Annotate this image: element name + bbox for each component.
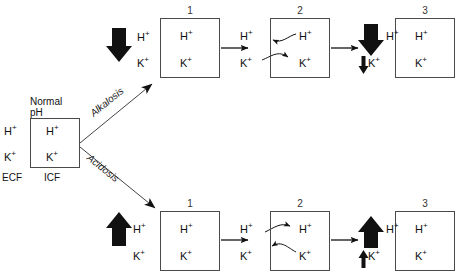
stage-top-1-outside-h: H+ [137, 32, 150, 43]
stage-top-1-inside-h: H+ [180, 31, 193, 42]
change-arrow-top1-h-down [106, 28, 132, 62]
diagram-canvas: Normal pH H+ K+ H+ K+ ECF ICF Alkalosis … [0, 0, 463, 277]
change-arrow-bottom1-h-up [106, 212, 132, 246]
compartment-label-ecf: ECF [2, 172, 22, 184]
stage-number-top-2: 2 [285, 5, 315, 16]
change-arrow-bottom3-h-up [358, 216, 384, 248]
stage-number-top-3: 3 [410, 5, 440, 16]
stage-bottom-3-inside-h: H+ [415, 224, 428, 235]
stage-bottom-2-outside-k: K+ [240, 251, 252, 262]
origin-label-ph: pH [30, 107, 43, 119]
stage-top-1-inside-k: K+ [180, 58, 192, 69]
change-arrow-top3-h-down [358, 24, 384, 56]
stage-bottom-2-inside-h: H+ [299, 224, 312, 235]
stage-top-2-inside-k: K+ [299, 58, 311, 69]
stage-box-bottom-1 [160, 211, 220, 271]
stage-top-2-outside-h: H+ [240, 31, 253, 42]
stage-top-1-outside-k: K+ [137, 58, 149, 69]
stage-box-top-1 [160, 18, 220, 78]
stage-top-2-inside-h: H+ [299, 31, 312, 42]
stage-bottom-1-inside-k: K+ [180, 251, 192, 262]
origin-label-normal: Normal [30, 96, 62, 108]
stage-bottom-3-outside-h: H+ [386, 224, 399, 235]
origin-inside-h: H+ [46, 126, 59, 137]
stage-bottom-3-outside-k: K+ [368, 251, 380, 262]
stage-number-bottom-2: 2 [285, 198, 315, 209]
stage-top-3-inside-k: K+ [415, 58, 427, 69]
change-arrow-top3-k-down [359, 56, 369, 74]
stage-number-top-1: 1 [175, 5, 205, 16]
stage-number-bottom-1: 1 [175, 198, 205, 209]
stage-top-3-outside-h: H+ [386, 31, 399, 42]
stage-bottom-1-outside-k: K+ [133, 251, 145, 262]
stage-bottom-1-outside-h: H+ [133, 224, 146, 235]
stage-top-3-outside-k: K+ [368, 58, 380, 69]
stage-box-top-2 [270, 18, 330, 78]
stage-top-2-outside-k: K+ [240, 58, 252, 69]
stage-box-bottom-3 [395, 211, 455, 271]
stage-bottom-2-outside-h: H+ [240, 224, 253, 235]
stage-number-bottom-3: 3 [410, 198, 440, 209]
stage-box-bottom-2 [270, 211, 330, 271]
change-arrow-bottom3-k-up [359, 250, 369, 268]
origin-outside-k: K+ [4, 152, 16, 163]
stage-bottom-2-inside-k: K+ [299, 251, 311, 262]
stage-top-3-inside-h: H+ [415, 31, 428, 42]
stage-box-top-3 [395, 18, 455, 78]
compartment-label-icf: ICF [44, 172, 60, 184]
origin-inside-k: K+ [46, 152, 58, 163]
stage-bottom-1-inside-h: H+ [180, 224, 193, 235]
stage-bottom-3-inside-k: K+ [415, 251, 427, 262]
origin-outside-h: H+ [4, 126, 17, 137]
